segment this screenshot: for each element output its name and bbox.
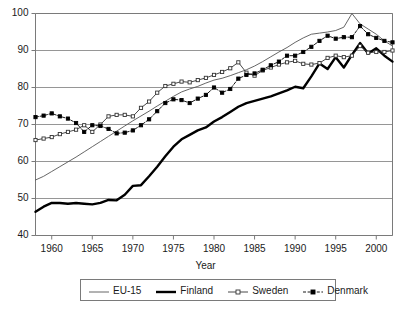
- series-marker-denmark: [358, 24, 361, 27]
- series-marker-denmark: [99, 124, 102, 127]
- y-axis-tick-label: 80: [17, 81, 28, 92]
- y-axis-tick-label: 60: [17, 155, 28, 166]
- series-marker-denmark: [58, 115, 61, 118]
- series-marker-sweden: [34, 138, 37, 141]
- series-marker-denmark: [237, 77, 240, 80]
- series-marker-denmark: [74, 121, 77, 124]
- series-marker-sweden: [212, 73, 215, 76]
- series-marker-sweden: [164, 84, 167, 87]
- series-marker-sweden: [188, 81, 191, 84]
- legend-label: EU-15: [113, 285, 141, 296]
- legend-swatch-icon: [155, 284, 177, 296]
- series-marker-sweden: [342, 56, 345, 59]
- series-marker-denmark: [367, 33, 370, 36]
- series-marker-denmark: [334, 37, 337, 40]
- x-axis-tick-label: 1970: [113, 243, 153, 254]
- series-marker-sweden: [334, 54, 337, 57]
- series-marker-sweden: [237, 61, 240, 64]
- series-marker-denmark: [326, 34, 329, 37]
- chart-legend: EU-15FinlandSwedenDenmark: [80, 279, 336, 301]
- series-marker-sweden: [375, 50, 378, 53]
- series-marker-denmark: [221, 91, 224, 94]
- series-marker-sweden: [131, 115, 134, 118]
- legend-entry-denmark[interactable]: Denmark: [302, 284, 368, 296]
- x-axis-title: Year: [0, 260, 411, 271]
- series-marker-sweden: [156, 91, 159, 94]
- series-marker-sweden: [196, 79, 199, 82]
- series-marker-sweden: [91, 130, 94, 133]
- series-marker-denmark: [66, 117, 69, 120]
- series-marker-denmark: [172, 98, 175, 101]
- series-marker-sweden: [326, 56, 329, 59]
- legend-entry-eu-15[interactable]: EU-15: [88, 284, 141, 296]
- series-marker-denmark: [212, 86, 215, 89]
- series-marker-denmark: [245, 73, 248, 76]
- legend-label: Finland: [180, 285, 213, 296]
- series-marker-denmark: [164, 101, 167, 104]
- series-marker-denmark: [294, 54, 297, 57]
- series-marker-denmark: [156, 110, 159, 113]
- series-marker-sweden: [115, 113, 118, 116]
- series-marker-sweden: [66, 130, 69, 133]
- legend-entry-sweden[interactable]: Sweden: [227, 284, 288, 296]
- legend-swatch-icon: [302, 284, 324, 296]
- series-marker-denmark: [204, 93, 207, 96]
- series-marker-denmark: [34, 116, 37, 119]
- series-marker-sweden: [350, 54, 353, 57]
- series-marker-denmark: [107, 127, 110, 130]
- series-marker-sweden: [172, 82, 175, 85]
- series-marker-denmark: [139, 124, 142, 127]
- series-marker-sweden: [285, 61, 288, 64]
- x-axis-tick-label: 1985: [235, 243, 275, 254]
- series-marker-sweden: [302, 62, 305, 65]
- legend-swatch-icon: [227, 284, 249, 296]
- series-marker-sweden: [180, 80, 183, 83]
- series-marker-denmark: [196, 97, 199, 100]
- y-axis-tick-label: 90: [17, 44, 28, 55]
- legend-entry-finland[interactable]: Finland: [155, 284, 213, 296]
- legend-label: Sweden: [252, 285, 288, 296]
- x-axis-tick-label: 1995: [316, 243, 356, 254]
- series-marker-denmark: [131, 129, 134, 132]
- series-marker-denmark: [253, 72, 256, 75]
- series-marker-sweden: [221, 70, 224, 73]
- series-marker-denmark: [261, 68, 264, 71]
- series-marker-denmark: [391, 41, 394, 44]
- series-marker-denmark: [375, 36, 378, 39]
- series-marker-denmark: [350, 36, 353, 39]
- series-marker-sweden: [204, 76, 207, 79]
- series-marker-sweden: [74, 128, 77, 131]
- series-marker-denmark: [123, 131, 126, 134]
- x-axis-tick-label: 1960: [32, 243, 72, 254]
- series-marker-sweden: [391, 49, 394, 52]
- series-marker-sweden: [107, 115, 110, 118]
- series-marker-sweden: [229, 67, 232, 70]
- series-marker-denmark: [180, 98, 183, 101]
- series-marker-denmark: [91, 124, 94, 127]
- x-axis-tick-label: 1965: [72, 243, 112, 254]
- y-axis-tick-label: 50: [17, 192, 28, 203]
- series-marker-sweden: [147, 100, 150, 103]
- series-marker-denmark: [115, 132, 118, 135]
- x-axis-tick-label: 1975: [153, 243, 193, 254]
- series-marker-sweden: [294, 59, 297, 62]
- series-marker-denmark: [229, 87, 232, 90]
- series-marker-denmark: [302, 50, 305, 53]
- series-marker-sweden: [123, 113, 126, 116]
- series-marker-denmark: [383, 39, 386, 42]
- x-axis-tick-label: 2000: [356, 243, 396, 254]
- y-axis-tick-label: 40: [17, 229, 28, 240]
- y-axis-tick-label: 100: [12, 7, 29, 18]
- series-marker-sweden: [318, 61, 321, 64]
- series-marker-sweden: [58, 133, 61, 136]
- legend-swatch-icon: [88, 284, 110, 296]
- x-axis-tick-label: 1990: [275, 243, 315, 254]
- series-marker-sweden: [83, 124, 86, 127]
- series-marker-sweden: [358, 44, 361, 47]
- series-marker-denmark: [277, 60, 280, 63]
- legend-label: Denmark: [327, 285, 368, 296]
- series-marker-denmark: [188, 101, 191, 104]
- series-marker-sweden: [42, 137, 45, 140]
- series-marker-denmark: [318, 39, 321, 42]
- series-marker-denmark: [269, 64, 272, 67]
